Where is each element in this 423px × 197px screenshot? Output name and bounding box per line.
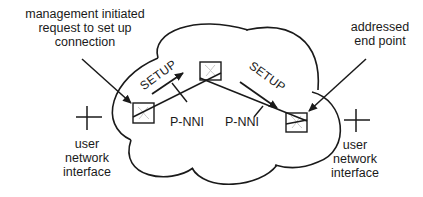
label-line: interface	[320, 166, 390, 180]
user-network-interface-right-label: user network interface	[320, 138, 390, 180]
label-line: network	[52, 151, 122, 165]
pnni-label-left: P-NNI	[170, 115, 204, 129]
label-line: addressed	[340, 20, 420, 34]
label-line: user	[320, 138, 390, 152]
diagram-canvas: management initiated request to set up c…	[0, 0, 423, 197]
label-line: interface	[52, 165, 122, 179]
switch-box-icon	[133, 103, 154, 123]
interface-cross-icon	[344, 109, 370, 132]
label-line: network	[320, 152, 390, 166]
label-line: connection	[10, 35, 160, 49]
label-line: end point	[340, 34, 420, 48]
pnni-label-right: P-NNI	[225, 115, 259, 129]
management-label: management initiated request to set up c…	[10, 7, 160, 49]
arrow-icon	[82, 59, 131, 103]
user-network-interface-left-label: user network interface	[52, 137, 122, 179]
switch-box-icon	[200, 62, 221, 80]
label-line: management initiated	[10, 7, 160, 21]
label-line: user	[52, 137, 122, 151]
addressed-end-point-label: addressed end point	[340, 20, 420, 48]
interface-cross-icon	[76, 106, 102, 130]
label-line: request to set up	[10, 21, 160, 35]
